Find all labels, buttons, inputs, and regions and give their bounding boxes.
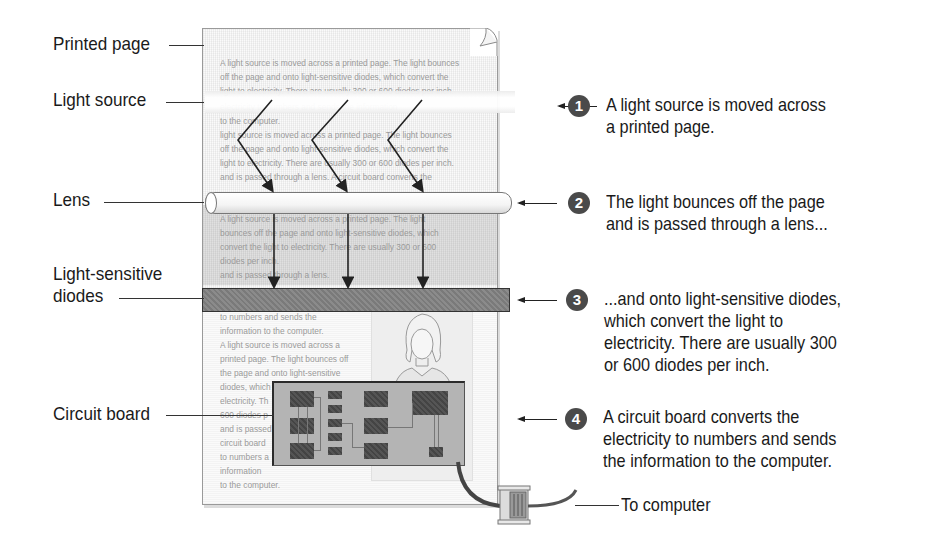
arrow-left-icon xyxy=(519,203,557,204)
label-lens: Lens xyxy=(53,189,90,211)
arrow-left-icon xyxy=(519,419,557,420)
page-text-line: A light source is moved across a xyxy=(220,338,348,352)
step-line: a printed page. xyxy=(606,116,826,138)
step-line: The light bounces off the page xyxy=(606,191,828,213)
step-badge-3: 3 xyxy=(566,289,588,311)
step-line: A light source is moved across xyxy=(606,94,826,116)
chip xyxy=(364,418,388,434)
step-line: the information to the computer. xyxy=(603,450,836,472)
chip xyxy=(290,391,314,407)
label-printed-page: Printed page xyxy=(53,33,150,55)
step-line: ...and onto light-sensitive diodes, xyxy=(604,288,841,310)
arrow-left-icon xyxy=(519,300,557,301)
circuit-trace xyxy=(434,415,439,447)
page-text-line: information to the computer. xyxy=(220,324,348,338)
chip xyxy=(412,391,448,415)
chip xyxy=(328,419,342,427)
circuit-trace xyxy=(298,407,308,443)
light-rays xyxy=(200,90,520,300)
label-line: Light-sensitive xyxy=(53,263,162,285)
chip xyxy=(328,433,342,441)
label-circuit-board: Circuit board xyxy=(53,403,150,425)
label-light-sensitive-diodes: Light-sensitive diodes xyxy=(53,263,162,307)
leader-line xyxy=(166,415,274,416)
step-badge-4: 4 xyxy=(565,408,587,430)
page-text-line: to the computer. xyxy=(220,478,348,492)
circuit-trace xyxy=(342,423,353,448)
circuit-trace xyxy=(314,397,321,451)
label-line: diodes xyxy=(53,285,162,307)
chip xyxy=(328,405,342,413)
leader-line xyxy=(169,45,204,46)
chip xyxy=(328,447,342,455)
label-light-source: Light source xyxy=(53,89,146,111)
page-text-line: printed page. The light bounces off xyxy=(220,352,348,366)
circuit-trace xyxy=(352,447,364,449)
step-line: or 600 diodes per inch. xyxy=(604,354,841,376)
leader-line xyxy=(166,102,204,103)
step-4-text: A circuit board converts the electricity… xyxy=(603,406,836,472)
step-badge-1: 1 xyxy=(568,95,590,117)
circuit-trace xyxy=(388,403,413,428)
page-text-line: information xyxy=(220,464,348,478)
step-line: electricity. There are usually 300 xyxy=(604,332,841,354)
circuit-board xyxy=(272,381,465,466)
step-badge-2: 2 xyxy=(568,192,590,214)
chip xyxy=(290,443,314,459)
chip xyxy=(364,391,388,407)
step-2-text: The light bounces off the page and is pa… xyxy=(606,191,828,235)
leader-line xyxy=(575,505,619,506)
leader-line xyxy=(119,298,204,299)
step-line: and is passed through a lens... xyxy=(606,213,828,235)
leader-line xyxy=(104,202,204,203)
step-3-text: ...and onto light-sensitive diodes, whic… xyxy=(604,288,841,376)
chip xyxy=(364,443,388,459)
step-1-text: A light source is moved across a printed… xyxy=(606,94,826,138)
page-text-line: A light source is moved across a printed… xyxy=(220,56,459,70)
step-line: which convert the light to xyxy=(604,310,841,332)
label-to-computer: To computer xyxy=(621,494,711,516)
chip xyxy=(328,391,342,399)
page-text-line: off the page and onto light-sensitive di… xyxy=(220,70,459,84)
page-text-line: to numbers and sends the xyxy=(220,310,348,324)
page-curl-icon xyxy=(470,28,498,56)
step-line: electricity to numbers and sends xyxy=(603,428,836,450)
page-text-line: the page and onto light-sensitive xyxy=(220,366,348,380)
step-line: A circuit board converts the xyxy=(603,406,836,428)
